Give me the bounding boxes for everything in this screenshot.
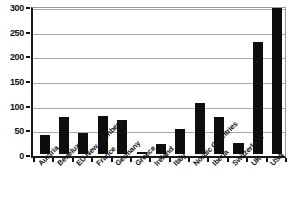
y-axis-tick-mark [26,155,30,157]
bar[interactable] [272,8,282,154]
bar-slot [151,9,170,154]
bar-slot [190,9,209,154]
y-axis-tick-mark [26,7,30,9]
y-axis-tick-mark [26,81,30,83]
y-axis-tick-label: 100 [0,103,24,112]
bars-layer [35,9,284,154]
y-axis: 050100150200250300 [0,7,31,158]
y-axis-tick-label: 250 [0,29,24,38]
y-axis-tick-mark [26,106,30,108]
x-axis-labels: AustriaBeneluxEU New membersFranceGerman… [0,160,292,224]
y-axis-tick-label: 200 [0,53,24,62]
bar-slot [54,9,73,154]
y-axis-tick-mark [26,56,30,58]
bar-chart: 050100150200250300 AustriaBeneluxEU New … [0,0,292,224]
y-axis-tick-mark [26,130,30,132]
plot-area [31,7,286,158]
y-axis-tick-label: 50 [0,127,24,136]
bar-slot [74,9,93,154]
bar-slot [268,9,287,154]
y-axis-tick-label: 150 [0,78,24,87]
y-axis-tick-label: 300 [0,4,24,13]
plot-area-wrapper [31,7,286,158]
bar[interactable] [195,103,205,154]
bar-slot [171,9,190,154]
y-axis-tick-mark [26,32,30,34]
bar-slot [132,9,151,154]
bar-slot [35,9,54,154]
